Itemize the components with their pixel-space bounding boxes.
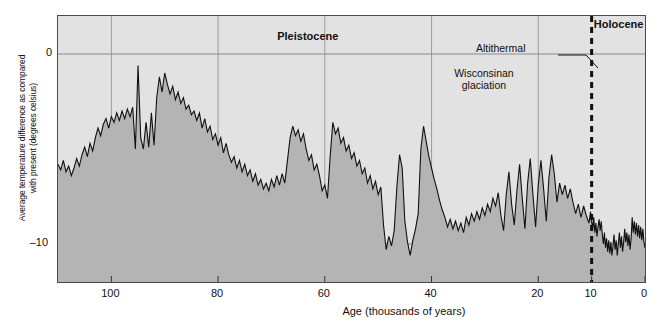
y-tick-label-0: 0 xyxy=(26,46,52,58)
annotation-holocene: Holocene xyxy=(594,18,644,30)
x-tick-label-100: 100 xyxy=(90,287,130,299)
x-axis-title: Age (thousands of years) xyxy=(274,305,534,317)
annotation-pleistocene: Pleistocene xyxy=(248,30,368,42)
x-tick-label-20: 20 xyxy=(517,287,557,299)
x-tick-label-0: 0 xyxy=(624,287,657,299)
y-tick-label-neg10: –10 xyxy=(22,236,48,248)
temperature-curve-chart xyxy=(58,16,645,282)
y-axis-title-line1: Average temperature difference as compar… xyxy=(17,55,27,222)
x-tick-label-80: 80 xyxy=(197,287,237,299)
y-axis-title-line2: with present (degrees celsius) xyxy=(28,83,38,193)
annotation-wisconsinan-line2: glaciation xyxy=(462,79,506,91)
annotation-wisconsinan-glaciation: Wisconsinanglaciation xyxy=(429,67,539,91)
annotation-wisconsinan-line1: Wisconsinan xyxy=(454,67,514,79)
plot-area xyxy=(57,15,646,283)
figure-root: Average temperature difference as compar… xyxy=(0,0,657,324)
x-tick-label-10: 10 xyxy=(571,287,611,299)
annotation-altithermal: Altithermal xyxy=(476,42,526,54)
x-tick-label-40: 40 xyxy=(411,287,451,299)
x-tick-label-60: 60 xyxy=(304,287,344,299)
